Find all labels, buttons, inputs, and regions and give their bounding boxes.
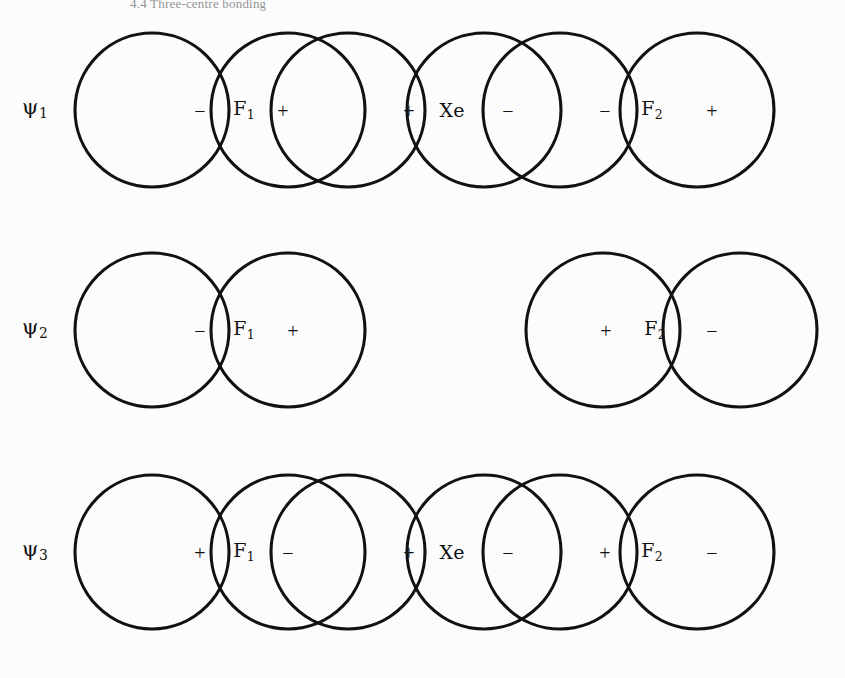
orbital-lobe <box>271 33 425 187</box>
atom-label-f1: F1 <box>233 541 255 563</box>
atom-label-f2: F2 <box>641 99 663 121</box>
atom-label-f1: F1 <box>233 99 255 121</box>
mo-row-psi2: ψ2−F1++F2− <box>0 220 845 440</box>
orbital-lobe <box>271 475 425 629</box>
phase-sign-minus: − <box>194 101 205 121</box>
phase-sign-minus: − <box>194 321 205 341</box>
orbital-lobe <box>75 253 229 407</box>
atom-label-xe: Xe <box>440 101 465 120</box>
phase-sign-minus: − <box>502 101 513 121</box>
orbital-lobe <box>75 475 229 629</box>
orbital-lobes-psi2 <box>0 220 845 440</box>
mo-diagram: 4.4 Three-centre bonding ψ1−F1++Xe−−F2+ψ… <box>0 0 845 678</box>
orbital-lobes-psi3 <box>0 442 845 662</box>
phase-sign-minus: − <box>282 543 293 563</box>
phase-sign-plus: + <box>403 101 414 121</box>
phase-sign-plus: + <box>706 101 717 121</box>
atom-label-f2: F2 <box>644 319 666 341</box>
phase-sign-plus: + <box>599 543 610 563</box>
phase-sign-plus: + <box>403 543 414 563</box>
atom-label-xe: Xe <box>440 543 465 562</box>
phase-sign-plus: + <box>287 321 298 341</box>
phase-sign-minus: − <box>706 543 717 563</box>
atom-label-f1: F1 <box>233 319 255 341</box>
orbital-lobes-psi1 <box>0 0 845 220</box>
mo-row-psi3: ψ3+F1−+Xe−+F2− <box>0 442 845 662</box>
phase-sign-minus: − <box>706 321 717 341</box>
orbital-lobe <box>75 33 229 187</box>
phase-sign-plus: + <box>600 321 611 341</box>
phase-sign-plus: + <box>277 101 288 121</box>
orbital-lobe <box>663 253 817 407</box>
phase-sign-minus: − <box>502 543 513 563</box>
phase-sign-plus: + <box>194 543 205 563</box>
mo-row-psi1: ψ1−F1++Xe−−F2+ <box>0 0 845 220</box>
atom-label-f2: F2 <box>641 541 663 563</box>
phase-sign-minus: − <box>599 101 610 121</box>
